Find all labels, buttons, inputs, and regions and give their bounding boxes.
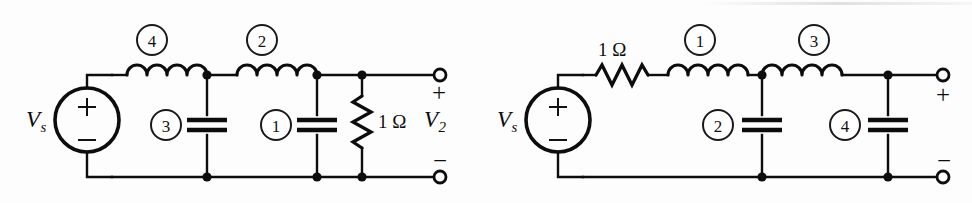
left-inductor-4 [127, 65, 207, 75]
right-number-label: 2 [714, 117, 723, 136]
right-output-terminal-positive [937, 69, 949, 81]
left-element-number-inductor-4: 4 [137, 25, 167, 55]
left-capacitor-3 [187, 75, 227, 177]
right-node-dot [757, 172, 766, 181]
left-load-resistor [353, 75, 371, 177]
left-node-dot [202, 172, 211, 181]
left-number-label: 1 [272, 117, 281, 136]
left-output-minus-label: − [433, 148, 447, 173]
right-number-label: 3 [810, 32, 819, 51]
right-element-number-capacitor-4: 4 [830, 110, 860, 140]
left-number-label: 4 [148, 32, 157, 51]
left-element-number-capacitor-3: 3 [151, 110, 181, 140]
left-node-dot [312, 172, 321, 181]
circuit-drawing: 4 2 3 1 [0, 0, 972, 203]
left-node-dot [312, 70, 321, 79]
right-capacitor-4 [868, 75, 908, 177]
right-capacitor-2 [742, 75, 782, 177]
right-output-plus-label: + [936, 82, 950, 107]
right-source-resistor-label: 1 Ω [598, 40, 626, 59]
left-node-dot [357, 70, 366, 79]
left-source-label: Vs [26, 108, 46, 135]
right-node-dot [883, 172, 892, 181]
right-node-dot [757, 70, 766, 79]
right-element-number-inductor-1: 1 [685, 25, 715, 55]
right-inductor-3 [762, 65, 842, 75]
circuit-figure: 4 2 3 1 [0, 0, 972, 203]
right-inductor-1 [668, 65, 748, 75]
right-number-label: 4 [841, 117, 850, 136]
left-number-label: 2 [258, 32, 267, 51]
right-source-label: Vs [497, 108, 517, 135]
left-element-number-inductor-2: 2 [247, 25, 277, 55]
left-output-plus-label: + [432, 80, 446, 105]
right-output-minus-label: − [937, 148, 951, 173]
right-node-dot [883, 70, 892, 79]
left-inductor-2 [237, 65, 317, 75]
right-source-resistor [596, 65, 648, 85]
right-circuit: 1 3 2 4 [526, 25, 949, 183]
left-node-dot [357, 172, 366, 181]
source-plus-icon [78, 98, 96, 116]
left-voltage-source [55, 75, 119, 177]
right-element-number-capacitor-2: 2 [703, 110, 733, 140]
left-circuit: 4 2 3 1 [55, 25, 446, 183]
left-capacitor-1 [297, 75, 337, 177]
right-voltage-source [526, 75, 590, 177]
left-element-number-capacitor-1: 1 [261, 110, 291, 140]
left-load-resistor-label: 1 Ω [378, 112, 406, 131]
source-plus-icon [549, 98, 567, 116]
left-number-label: 3 [162, 117, 171, 136]
right-element-number-inductor-3: 3 [799, 25, 829, 55]
left-output-label: V2 [424, 108, 446, 135]
right-number-label: 1 [696, 32, 705, 51]
left-node-dot [202, 70, 211, 79]
